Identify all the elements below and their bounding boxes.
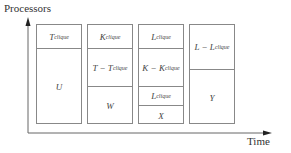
y-axis-arrow-icon	[26, 17, 31, 26]
cell-u: U	[37, 49, 81, 125]
schedule-column-1: Tclique U	[36, 24, 82, 124]
cell-l-clique-lower: Lclique	[139, 87, 183, 106]
cell-t-minus-t-clique: T − Tclique	[88, 49, 132, 87]
schedule-column-3: Lclique K − Kclique Lclique X	[138, 24, 184, 124]
x-axis-arrow-icon	[263, 131, 272, 136]
cell-w: W	[88, 87, 132, 125]
cell-l-minus-l-clique: L − Lclique	[190, 25, 234, 70]
cell-k-clique: Kclique	[88, 25, 132, 49]
cell-l-clique: Lclique	[139, 25, 183, 49]
schedule-column-4: L − Lclique Y	[189, 24, 235, 124]
schedule-column-2: Kclique T − Tclique W	[87, 24, 133, 124]
cell-x: X	[139, 106, 183, 125]
cell-y: Y	[190, 70, 234, 125]
cell-k-minus-k-clique: K − Kclique	[139, 49, 183, 87]
cell-t-clique: Tclique	[37, 25, 81, 49]
